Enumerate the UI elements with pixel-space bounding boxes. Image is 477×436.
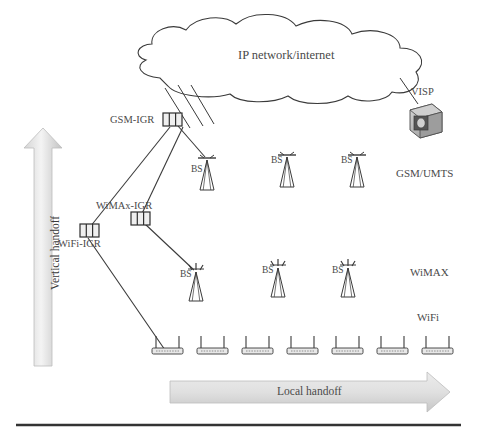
gsm-igr-label: GSM-IGR — [110, 114, 154, 125]
wifi-access-point — [197, 336, 228, 354]
wifi-access-point — [377, 336, 408, 354]
wimax-igr-label: WiMAx-IGR — [96, 200, 152, 211]
ip-cloud-label: IP network/internet — [238, 48, 334, 63]
wifi-access-point — [287, 336, 318, 354]
vertical-handoff-label: Vertical handoff — [49, 216, 61, 290]
bs-label-gsm: BS — [271, 155, 283, 165]
bs-label-wimax: BS — [180, 269, 192, 279]
network-diagram-svg — [0, 0, 477, 436]
network-label-gsm-umts: GSM/UMTS — [396, 167, 453, 179]
wifi-access-point — [422, 336, 453, 354]
gsm-igr-icon — [163, 113, 182, 126]
local-handoff-label: Local handoff — [277, 385, 342, 397]
igr-backbone-links — [86, 126, 205, 350]
diagram-canvas: IP network/internet VISP GSM-IGR WiMAx-I… — [0, 0, 477, 436]
wifi-igr-icon — [80, 224, 99, 237]
visp-label: VISP — [411, 86, 434, 97]
wifi-access-point — [242, 336, 273, 354]
bs-label-gsm: BS — [341, 155, 353, 165]
bs-label-gsm: BS — [191, 164, 203, 174]
wimax-igr-icon — [131, 212, 150, 225]
bs-label-wimax: BS — [262, 265, 274, 275]
network-label-wimax: WiMAX — [410, 266, 449, 278]
visp-server-icon — [410, 104, 442, 138]
wifi-igr-label: WiFi-IGR — [58, 238, 101, 249]
network-label-wifi: WiFi — [417, 311, 439, 323]
wifi-access-point — [332, 336, 363, 354]
bs-label-wimax: BS — [332, 265, 344, 275]
